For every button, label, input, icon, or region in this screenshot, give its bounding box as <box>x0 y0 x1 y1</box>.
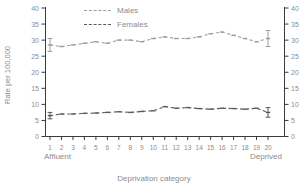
svg-text:18: 18 <box>241 144 249 151</box>
svg-text:1: 1 <box>48 144 52 151</box>
svg-text:11: 11 <box>161 144 168 151</box>
svg-text:0: 0 <box>291 133 295 140</box>
legend-item-males: Males <box>84 5 148 15</box>
svg-text:5: 5 <box>35 117 39 124</box>
svg-text:30: 30 <box>291 37 299 44</box>
svg-text:8: 8 <box>129 144 133 151</box>
chart: 0055101015152020252530303535404012345678… <box>0 0 308 193</box>
svg-text:0: 0 <box>35 133 39 140</box>
svg-text:16: 16 <box>218 144 226 151</box>
svg-text:35: 35 <box>291 21 299 28</box>
svg-text:40: 40 <box>31 5 39 12</box>
legend-label-males: Males <box>117 6 138 15</box>
svg-text:10: 10 <box>291 101 299 108</box>
plot-area: 0055101015152020252530303535404012345678… <box>0 0 308 193</box>
svg-text:4: 4 <box>83 144 87 151</box>
svg-text:10: 10 <box>150 144 158 151</box>
svg-text:12: 12 <box>173 144 181 151</box>
legend-item-females: Females <box>84 19 148 29</box>
svg-text:17: 17 <box>230 144 238 151</box>
svg-text:3: 3 <box>71 144 75 151</box>
svg-text:7: 7 <box>117 144 121 151</box>
svg-text:30: 30 <box>31 37 39 44</box>
males-line-sample-icon <box>84 10 111 11</box>
svg-text:15: 15 <box>291 85 299 92</box>
legend-label-females: Females <box>117 20 148 29</box>
svg-text:9: 9 <box>140 144 144 151</box>
svg-text:20: 20 <box>264 144 272 151</box>
x-axis-anchor-affluent: Affluent <box>44 152 71 161</box>
x-axis-label: Deprivation category <box>0 174 308 183</box>
x-axis-anchor-deprived: Deprived <box>250 152 282 161</box>
svg-text:14: 14 <box>196 144 204 151</box>
svg-text:35: 35 <box>31 21 39 28</box>
svg-text:25: 25 <box>31 53 39 60</box>
svg-text:15: 15 <box>31 85 39 92</box>
svg-text:10: 10 <box>31 101 39 108</box>
svg-text:40: 40 <box>291 5 299 12</box>
females-line-sample-icon <box>84 24 111 25</box>
svg-text:2: 2 <box>60 144 64 151</box>
svg-text:19: 19 <box>253 144 261 151</box>
svg-text:25: 25 <box>291 53 299 60</box>
svg-text:20: 20 <box>31 69 39 76</box>
svg-text:5: 5 <box>291 117 295 124</box>
svg-text:6: 6 <box>106 144 110 151</box>
y-axis-label: Rate per 100,000 <box>3 20 15 130</box>
svg-text:20: 20 <box>291 69 299 76</box>
svg-text:5: 5 <box>94 144 98 151</box>
svg-text:13: 13 <box>184 144 192 151</box>
svg-text:15: 15 <box>207 144 215 151</box>
legend: Males Females <box>84 5 148 29</box>
